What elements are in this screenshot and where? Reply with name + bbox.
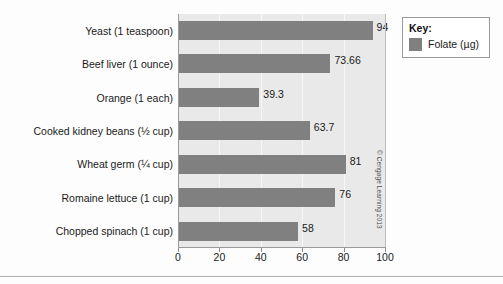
bar-row: 94 bbox=[178, 14, 385, 47]
x-tick-label-20: 20 bbox=[214, 252, 226, 263]
plot-area: 9473.6639.363.7817658 bbox=[178, 14, 385, 248]
x-tick-label-0: 0 bbox=[175, 252, 181, 263]
bar-row: 81 bbox=[178, 148, 385, 181]
bar bbox=[178, 155, 346, 174]
bar-value-label: 63.7 bbox=[314, 122, 334, 133]
category-label: Wheat germ (¼ cup) bbox=[77, 158, 173, 170]
bar-value-label: 39.3 bbox=[263, 89, 283, 100]
chart-figure: 9473.6639.363.7817658 Yeast (1 teaspoon)… bbox=[0, 0, 503, 284]
bar-value-label: 58 bbox=[302, 223, 314, 234]
bar bbox=[178, 188, 335, 207]
category-label-row: Orange (1 each) bbox=[0, 81, 173, 114]
bar-row: 73.66 bbox=[178, 47, 385, 80]
x-tick-label-100: 100 bbox=[376, 252, 394, 263]
bar bbox=[178, 222, 298, 241]
bar bbox=[178, 88, 259, 107]
bar bbox=[178, 121, 310, 140]
x-tick-label-80: 80 bbox=[338, 252, 350, 263]
bar bbox=[178, 54, 330, 73]
category-label-row: Wheat germ (¼ cup) bbox=[0, 148, 173, 181]
category-label-row: Yeast (1 teaspoon) bbox=[0, 14, 173, 47]
legend-swatch-folate bbox=[409, 38, 422, 51]
x-axis-tick-labels: 020406080100 bbox=[178, 252, 386, 268]
category-label-row: Chopped spinach (1 cup) bbox=[0, 215, 173, 248]
bottom-divider bbox=[0, 276, 503, 277]
bar-row: 63.7 bbox=[178, 114, 385, 147]
bar-value-label: 73.66 bbox=[334, 55, 360, 66]
x-tick-label-60: 60 bbox=[296, 252, 308, 263]
category-label: Beef liver (1 ounce) bbox=[82, 58, 173, 70]
category-label-row: Beef liver (1 ounce) bbox=[0, 47, 173, 80]
category-label-row: Romaine lettuce (1 cup) bbox=[0, 181, 173, 214]
bar-value-label: 76 bbox=[339, 189, 351, 200]
x-axis-line bbox=[178, 247, 386, 248]
bar-row: 76 bbox=[178, 181, 385, 214]
x-tick-label-40: 40 bbox=[255, 252, 267, 263]
category-label: Cooked kidney beans (½ cup) bbox=[34, 125, 174, 137]
legend-key-box: Key: Folate (µg) bbox=[402, 17, 490, 58]
category-label: Chopped spinach (1 cup) bbox=[56, 225, 173, 237]
copyright-credit: © Cengage Learning 2013 bbox=[376, 150, 383, 229]
bar-row: 58 bbox=[178, 215, 385, 248]
legend-label-folate: Folate (µg) bbox=[428, 38, 479, 50]
bar-value-label: 81 bbox=[350, 156, 362, 167]
plot-right-edge bbox=[385, 14, 386, 248]
category-label: Orange (1 each) bbox=[97, 92, 173, 104]
category-label: Yeast (1 teaspoon) bbox=[85, 25, 173, 37]
y-axis-line bbox=[178, 14, 179, 248]
bar-row: 39.3 bbox=[178, 81, 385, 114]
bar-value-label: 94 bbox=[377, 22, 389, 33]
category-label-row: Cooked kidney beans (½ cup) bbox=[0, 114, 173, 147]
category-axis-labels: Yeast (1 teaspoon)Beef liver (1 ounce)Or… bbox=[0, 14, 173, 248]
category-label: Romaine lettuce (1 cup) bbox=[62, 192, 173, 204]
legend-entry-folate: Folate (µg) bbox=[409, 38, 483, 51]
legend-title: Key: bbox=[409, 22, 483, 35]
bar bbox=[178, 21, 373, 40]
